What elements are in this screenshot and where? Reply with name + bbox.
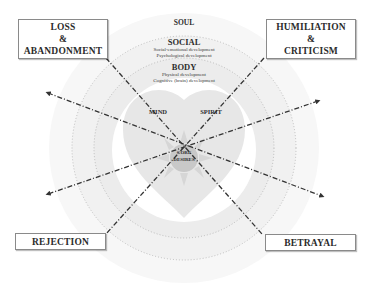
humiliation-criticism-box: HUMILIATION & CRITICISM <box>266 19 356 59</box>
box-line: BETRAYAL <box>284 237 337 249</box>
box-line: REJECTION <box>32 236 89 248</box>
body-label: BODY <box>172 62 197 72</box>
mind-label: MIND <box>149 108 167 115</box>
box-line: ABANDONMENT <box>24 45 103 57</box>
box-line: LOSS <box>50 21 75 33</box>
soul-label: SOUL <box>174 18 194 27</box>
box-line: & <box>307 33 315 45</box>
box-line: & <box>59 33 67 45</box>
loss-abandonment-box: LOSS & ABANDONMENT <box>18 19 108 59</box>
social-item: Psychological development <box>156 53 211 59</box>
rejection-box: REJECTION <box>15 233 106 250</box>
betrayal-box: BETRAYAL <box>265 234 356 251</box>
body-item: Cognitive (brain) development <box>153 78 215 84</box>
core-desires-label-2: DESIRES <box>173 157 194 162</box>
social-label: SOCIAL <box>168 37 201 47</box>
core-desires-label-1: CORE <box>177 150 191 155</box>
box-line: CRITICISM <box>284 45 338 57</box>
spirit-label: SPIRIT <box>200 108 222 115</box>
box-line: HUMILIATION <box>276 21 346 33</box>
